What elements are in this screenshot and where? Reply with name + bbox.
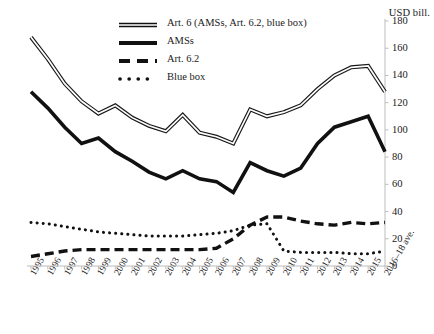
series-line — [31, 222, 385, 253]
series-line — [31, 92, 385, 193]
chart-container: USD bill. 180160140120100806040200 19951… — [0, 0, 434, 334]
plot-area — [0, 0, 434, 334]
series-line — [31, 217, 385, 256]
